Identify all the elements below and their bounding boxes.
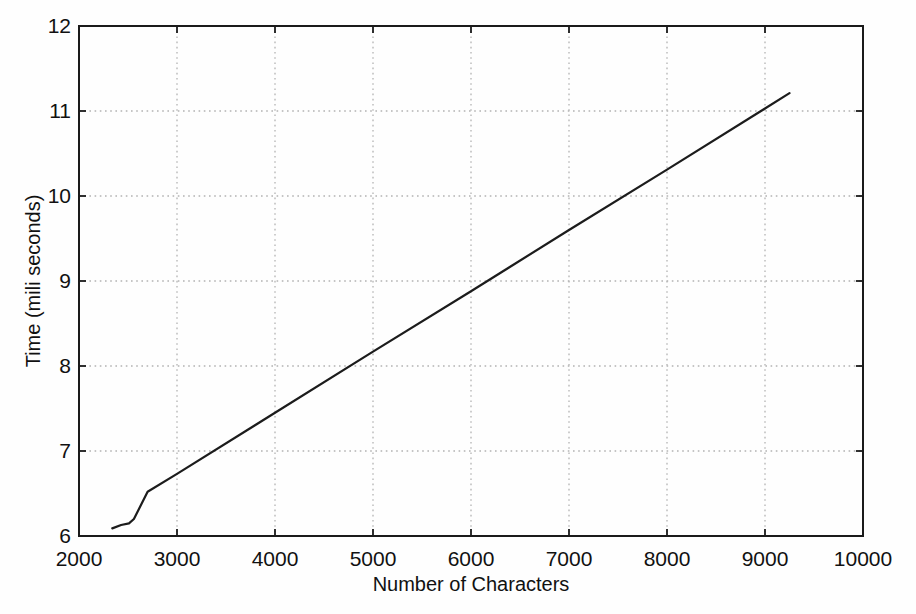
x-tick-label: 10000 (834, 547, 892, 570)
y-axis-label: Time (mili seconds) (22, 195, 44, 368)
x-tick-label: 8000 (644, 547, 691, 570)
x-tick-label: 5000 (350, 547, 397, 570)
line-chart: 2000300040005000600070008000900010000678… (0, 0, 916, 614)
x-tick-label: 6000 (448, 547, 495, 570)
y-tick-label: 9 (59, 269, 71, 292)
x-tick-label: 9000 (742, 547, 789, 570)
y-tick-label: 12 (48, 14, 71, 37)
x-tick-label: 7000 (546, 547, 593, 570)
x-axis-label: Number of Characters (373, 573, 570, 595)
y-tick-label: 8 (59, 354, 71, 377)
y-tick-label: 7 (59, 439, 71, 462)
y-tick-label: 11 (49, 99, 71, 122)
figure: 2000300040005000600070008000900010000678… (0, 0, 916, 614)
y-tick-label: 6 (59, 524, 71, 547)
x-tick-label: 2000 (56, 547, 103, 570)
grid-layer (79, 26, 863, 536)
x-tick-label: 3000 (154, 547, 201, 570)
data-line (112, 93, 789, 528)
y-tick-label: 10 (48, 184, 71, 207)
x-tick-label: 4000 (252, 547, 299, 570)
